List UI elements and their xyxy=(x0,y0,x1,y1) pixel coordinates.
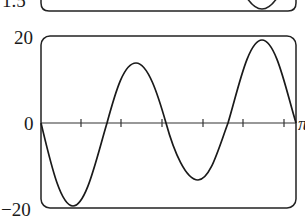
plot-svg xyxy=(0,0,305,218)
plot-frame xyxy=(41,36,296,208)
upper-panel-frame xyxy=(41,0,296,11)
chart: 1.5 20 0 −20 π xyxy=(0,0,305,218)
upper-panel-curve xyxy=(247,0,277,9)
